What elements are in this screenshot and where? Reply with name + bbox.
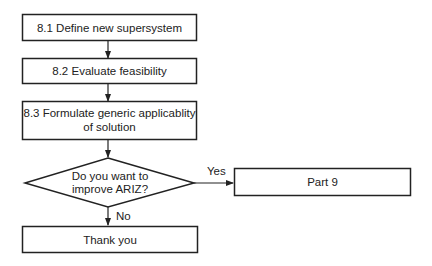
node-evaluate-feasibility: 8.2 Evaluate feasibility — [23, 59, 197, 84]
decision-improve-ariz: Do you want to improve ARIZ? — [25, 158, 194, 207]
node-thank-you: Thank you — [23, 227, 198, 253]
decision-label-line-2: improve ARIZ? — [72, 183, 148, 195]
node-label-line-2: of solution — [83, 121, 135, 133]
node-part-9: Part 9 — [235, 169, 411, 196]
edge-yes-to-part9: Yes — [194, 165, 233, 183]
node-label-line-1: 8.3 Formulate generic applicablity — [24, 107, 196, 119]
node-label: 8.1 Define new supersystem — [37, 22, 182, 34]
node-label: Part 9 — [307, 176, 338, 188]
edge-no-to-thank-you: No — [108, 207, 131, 225]
node-define-new-supersystem: 8.1 Define new supersystem — [23, 15, 197, 41]
node-label: Thank you — [83, 234, 137, 246]
node-formulate-generic-applicability: 8.3 Formulate generic applicablity of so… — [23, 102, 197, 140]
flowchart-canvas: 8.1 Define new supersystem 8.2 Evaluate … — [0, 0, 432, 266]
node-label: 8.2 Evaluate feasibility — [52, 65, 167, 77]
edge-label-no: No — [116, 210, 131, 222]
edge-label-yes: Yes — [207, 165, 226, 177]
decision-label-line-1: Do you want to — [72, 170, 149, 182]
